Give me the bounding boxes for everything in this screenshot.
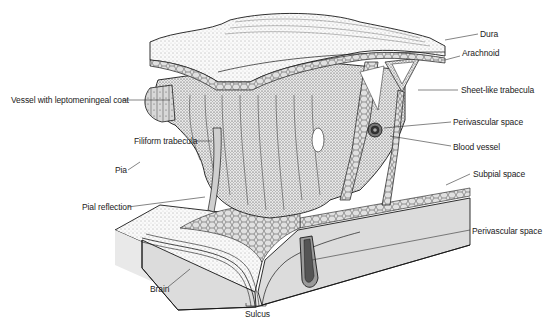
vessel-with-leptomeningeal-coat [145, 85, 175, 122]
label-sulcus: Sulcus [245, 309, 270, 319]
label-sheet-like-trabecula: Sheet-like trabecula [461, 85, 534, 95]
meninges-diagram: Dura Arachnoid Sheet-like trabecula Peri… [0, 0, 543, 321]
label-pia: Pia [115, 165, 127, 175]
blood-vessel [368, 123, 382, 137]
label-subpial-space: Subpial space [473, 169, 525, 179]
label-perivascular-space-lower: Perivascular space [472, 226, 542, 236]
label-blood-vessel: Blood vessel [453, 142, 500, 152]
label-filiform-trabecula: Filiform trabecula [134, 136, 197, 146]
label-brain: Brain [150, 284, 169, 294]
label-perivascular-space-upper: Perivascular space [453, 117, 523, 127]
label-dura: Dura [480, 29, 498, 39]
label-vessel-with-leptomeningeal-coat: Vessel with leptomeningeal coat [11, 95, 129, 105]
label-arachnoid: Arachnoid [462, 48, 499, 58]
label-pial-reflection: Pial reflection [82, 202, 132, 212]
